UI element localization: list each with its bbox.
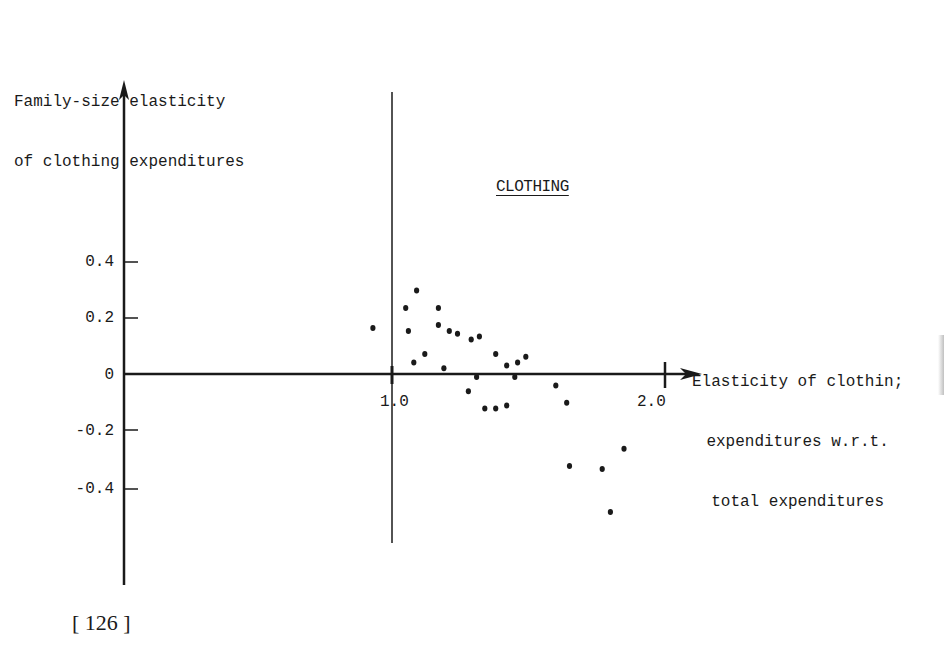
scatter-plot xyxy=(0,0,944,668)
data-point xyxy=(436,322,441,328)
data-point xyxy=(608,509,613,515)
data-point xyxy=(512,374,517,380)
data-point xyxy=(406,328,411,334)
data-point xyxy=(564,400,569,406)
data-point xyxy=(493,351,498,357)
data-point xyxy=(600,466,605,472)
data-point xyxy=(370,325,375,331)
data-point xyxy=(553,383,558,389)
data-point xyxy=(436,305,441,311)
data-point xyxy=(455,331,460,337)
data-points xyxy=(370,288,626,515)
data-point xyxy=(469,337,474,343)
data-point xyxy=(474,374,479,380)
data-point xyxy=(523,354,528,360)
data-point xyxy=(621,446,626,452)
data-point xyxy=(441,365,446,371)
data-point xyxy=(422,351,427,357)
data-point xyxy=(567,463,572,469)
data-point xyxy=(477,334,482,340)
data-point xyxy=(414,288,419,294)
data-point xyxy=(466,388,471,394)
data-point xyxy=(493,406,498,412)
page-edge-shadow xyxy=(938,335,944,395)
data-point xyxy=(447,328,452,334)
data-point xyxy=(504,362,509,368)
data-point xyxy=(515,360,520,366)
data-point xyxy=(504,403,509,409)
data-point xyxy=(411,360,416,366)
data-point xyxy=(482,406,487,412)
page-number: [ 126 ] xyxy=(72,610,131,636)
data-point xyxy=(403,305,408,311)
